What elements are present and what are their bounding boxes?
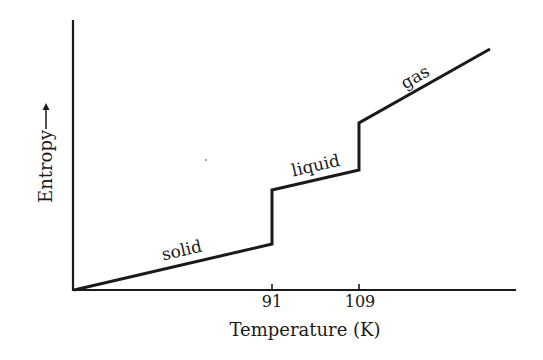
entropy-curve xyxy=(74,49,490,290)
x-tick-label-91: 91 xyxy=(262,292,282,311)
speck xyxy=(205,159,207,161)
up-arrow-icon xyxy=(43,103,50,129)
y-axis-label-group: Entropy xyxy=(35,103,56,203)
x-axis-label: Temperature (K) xyxy=(229,319,380,340)
y-axis-label: Entropy xyxy=(35,129,56,203)
x-tick-label-109: 109 xyxy=(345,292,376,311)
entropy-temperature-chart: solid liquid gas 91 109 Temperature (K) … xyxy=(0,0,543,360)
gas-label: gas xyxy=(397,61,433,93)
